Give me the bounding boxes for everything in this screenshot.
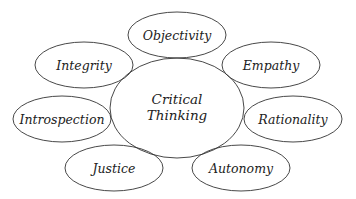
- node-rationality: Rationality: [244, 96, 342, 142]
- node-integrity: Integrity: [35, 42, 133, 88]
- node-objectivity: Objectivity: [128, 12, 226, 58]
- node-justice: Justice: [65, 145, 163, 191]
- node-autonomy: Autonomy: [192, 145, 290, 191]
- node-label-integrity: Integrity: [55, 58, 112, 73]
- node-label-autonomy: Autonomy: [208, 161, 274, 176]
- node-label-introspection: Introspection: [19, 112, 105, 127]
- node-introspection: Introspection: [13, 96, 111, 142]
- node-label-objectivity: Objectivity: [143, 28, 213, 43]
- center-label-line2: Thinking: [147, 107, 208, 123]
- diagram-svg: Objectivity Integrity Empathy Introspect…: [0, 0, 356, 199]
- center-label-line1: Critical: [152, 91, 203, 107]
- node-empathy: Empathy: [222, 42, 320, 88]
- node-label-justice: Justice: [90, 161, 136, 176]
- node-label-empathy: Empathy: [242, 58, 301, 73]
- node-label-rationality: Rationality: [257, 112, 328, 127]
- concept-diagram: Objectivity Integrity Empathy Introspect…: [0, 0, 356, 199]
